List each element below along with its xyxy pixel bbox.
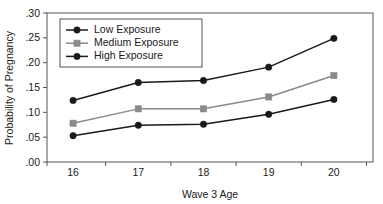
x-tick-label: 17: [132, 166, 144, 178]
x-axis-ticks: 1617181920: [47, 162, 366, 178]
x-tick-label: 18: [198, 166, 210, 178]
y-tick-label: .15: [25, 81, 40, 93]
data-point-marker: [200, 106, 206, 112]
data-point-marker: [200, 77, 206, 83]
legend-marker-circle-icon: [74, 27, 80, 33]
x-axis-title: Wave 3 Age: [182, 188, 238, 200]
y-tick-label: .25: [25, 31, 40, 43]
data-point-marker: [331, 96, 337, 102]
y-axis-title: Probability of Pregnancy: [3, 30, 15, 145]
y-tick-label: .05: [25, 131, 40, 143]
x-tick-label: 20: [328, 166, 340, 178]
data-point-marker: [331, 72, 337, 78]
y-tick-label: .10: [25, 106, 40, 118]
chart-svg: .00.05.10.15.20.25.30 1617181920 Low Exp…: [0, 0, 383, 204]
y-tick-label: .30: [25, 7, 40, 19]
x-tick-label: 19: [263, 166, 275, 178]
legend-marker-circle-icon: [74, 53, 80, 59]
legend-entry-label: High Exposure: [94, 49, 163, 61]
pregnancy-probability-line-chart: .00.05.10.15.20.25.30 1617181920 Low Exp…: [0, 0, 383, 204]
data-point-marker: [331, 35, 337, 41]
data-point-marker: [265, 64, 271, 70]
legend-entry-label: Low Exposure: [94, 23, 161, 35]
data-point-marker: [135, 79, 141, 85]
data-point-marker: [70, 120, 76, 126]
chart-legend: Low ExposureMedium ExposureHigh Exposure: [60, 19, 202, 67]
data-point-marker: [70, 132, 76, 138]
y-axis-ticks: .00.05.10.15.20.25.30: [25, 7, 47, 168]
y-tick-label: .00: [25, 156, 40, 168]
data-point-marker: [70, 97, 76, 103]
legend-marker-square-icon: [74, 40, 80, 46]
data-point-marker: [135, 122, 141, 128]
data-point-marker: [200, 121, 206, 127]
legend-entry-label: Medium Exposure: [94, 36, 179, 48]
data-point-marker: [266, 94, 272, 100]
data-point-marker: [265, 111, 271, 117]
x-tick-label: 16: [67, 166, 79, 178]
y-tick-label: .20: [25, 56, 40, 68]
data-point-marker: [135, 106, 141, 112]
